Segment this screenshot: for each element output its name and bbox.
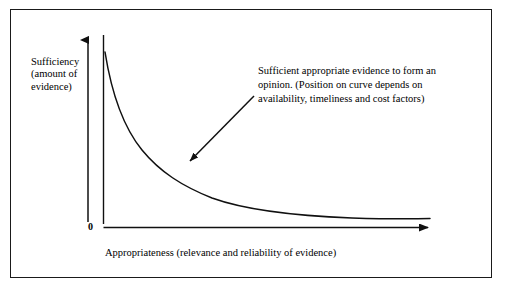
curve-annotation-line-3: availability, timeliness and cost factor… — [258, 92, 473, 106]
curve-annotation-line-2: opinion. (Position on curve depends on — [258, 78, 473, 92]
figure-border — [10, 9, 492, 278]
curve-annotation-line-1: Sufficient appropriate evidence to form … — [258, 64, 473, 78]
curve-annotation: Sufficient appropriate evidence to form … — [258, 64, 473, 106]
y-axis-label: Sufficiency (amount of evidence) — [31, 56, 103, 93]
figure-canvas: Sufficiency (amount of evidence) 0 Appro… — [0, 0, 506, 292]
x-axis-label: Appropriateness (relevance and reliabili… — [105, 247, 336, 259]
y-axis-label-line-1: Sufficiency — [31, 56, 103, 68]
y-axis-label-line-3: evidence) — [31, 81, 103, 93]
y-axis-label-line-2: (amount of — [31, 68, 103, 80]
origin-tick-label: 0 — [88, 221, 93, 233]
